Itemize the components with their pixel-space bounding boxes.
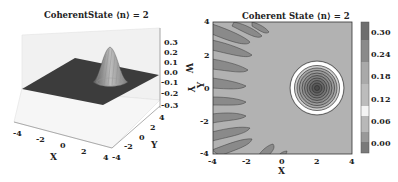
z-tick: 0.1 xyxy=(164,57,178,67)
y-tick: 2 xyxy=(204,50,210,60)
surface-plot-panel: CoherentState ⟨n⟩ = 2 0.3 0.2 0.1 0.0 -0… xyxy=(0,0,200,182)
x-tick: -2 xyxy=(36,134,45,144)
x-tick: -2 xyxy=(242,156,251,166)
colorbar-tick: 0.24 xyxy=(371,49,390,59)
y-axis-label: Y xyxy=(151,140,157,150)
x-tick: -4 xyxy=(208,156,217,166)
z-tick: 0.2 xyxy=(164,47,178,57)
z-tick: 0.0 xyxy=(164,67,178,77)
y-tick: -2 xyxy=(124,141,133,151)
x-tick: 4 xyxy=(349,156,355,166)
x-tick: -4 xyxy=(13,128,22,138)
x-tick: 0 xyxy=(279,156,285,166)
z-tick: -0.2 xyxy=(161,88,178,98)
x-axis-label: X xyxy=(278,166,285,176)
z-tick: -0.1 xyxy=(161,77,178,87)
z-tick: -0.3 xyxy=(161,100,178,110)
x-axis-label: X xyxy=(50,152,57,162)
colorbar-tick: 0.06 xyxy=(371,116,390,126)
y-tick: 2 xyxy=(150,122,156,132)
y-tick: 0 xyxy=(139,132,145,142)
x-tick: 4 xyxy=(103,152,109,162)
y-tick: 4 xyxy=(159,112,165,122)
y-tick: 4 xyxy=(204,16,210,26)
x-tick: 0 xyxy=(60,140,66,150)
colorbar-tick: 0.18 xyxy=(371,71,390,81)
colorbar-tick: 0.30 xyxy=(371,27,390,37)
z-axis-label: W xyxy=(184,63,194,73)
colorbar-tick: 0.00 xyxy=(371,138,390,148)
y-axis-label-rotated: Y xyxy=(186,86,196,92)
colorbar-tick: 0.12 xyxy=(371,94,390,104)
y-tick: -2 xyxy=(200,116,209,126)
x-tick: 2 xyxy=(314,156,320,166)
contour-plot-graphic xyxy=(200,0,398,182)
x-tick: 2 xyxy=(81,146,87,156)
y-axis-label: Y xyxy=(196,82,206,88)
contour-plot-panel: Coherent State ⟨n⟩ = 2 xyxy=(200,0,398,182)
z-tick: 0.3 xyxy=(164,37,178,47)
y-tick: -4 xyxy=(112,152,121,162)
